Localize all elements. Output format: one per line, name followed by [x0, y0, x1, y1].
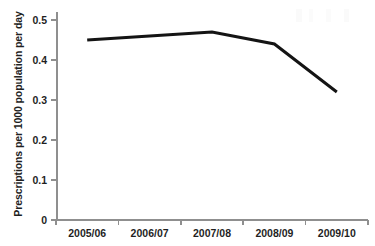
chart-figure: Prescriptions per 1000 population per da… — [0, 0, 375, 246]
line-series-prescriptions — [87, 32, 337, 92]
series-layer — [0, 0, 375, 246]
